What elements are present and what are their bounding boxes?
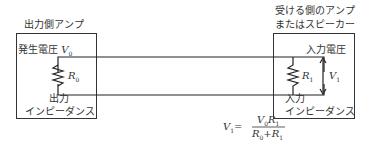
r1-label: R1 xyxy=(302,70,313,86)
top-wire xyxy=(58,57,324,72)
output-impedance-line2: インピーダンス xyxy=(25,106,95,118)
source-voltage-label: 発生電圧 V0 xyxy=(18,44,72,60)
formula-lhs: V1= xyxy=(223,121,242,137)
r0-label: R0 xyxy=(68,70,79,86)
input-voltage-label: 入力電圧 xyxy=(306,44,346,56)
formula-denominator: R0+R1 xyxy=(252,128,283,144)
resistor-r1-icon xyxy=(288,57,298,95)
receiver-title-line1: 受ける側のアンプ xyxy=(275,5,355,17)
input-impedance-line1: 入力 xyxy=(285,93,305,105)
v1-label: V1 xyxy=(329,70,340,86)
output-amp-title: 出力側アンプ xyxy=(24,19,84,31)
receiver-title-line2: またはスピーカー xyxy=(275,19,355,31)
input-impedance-line2: インピーダンス xyxy=(285,106,355,118)
output-impedance-line1: 出力 xyxy=(49,93,69,105)
